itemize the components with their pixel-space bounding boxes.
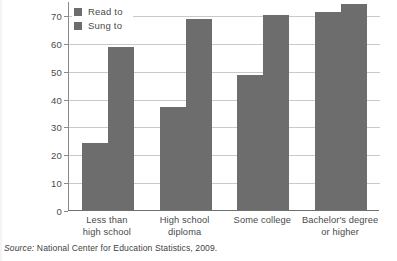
bar bbox=[315, 12, 341, 210]
legend-label: Sung to bbox=[88, 20, 122, 31]
source-label: Source: bbox=[4, 243, 34, 253]
x-axis-tick-label: Bachelor's degreeor higher bbox=[301, 215, 379, 238]
x-axis-tick-label-line: Less than bbox=[68, 215, 146, 227]
y-axis-tick-label: 60 bbox=[40, 38, 62, 49]
x-axis-tick-label-line: Bachelor's degree bbox=[301, 215, 379, 227]
x-axis-tick-label-line: high school bbox=[68, 227, 146, 239]
legend-label: Read to bbox=[88, 6, 123, 17]
y-axis-tick-label: 50 bbox=[40, 66, 62, 77]
y-axis-tick-mark bbox=[64, 44, 68, 45]
bar bbox=[341, 4, 367, 210]
y-axis-tick-label: 40 bbox=[40, 94, 62, 105]
x-axis-tick-label-line: High school bbox=[146, 215, 224, 227]
legend-item-sung-to: Sung to bbox=[74, 19, 123, 32]
x-axis-tick-label: Less thanhigh school bbox=[68, 215, 146, 238]
y-axis-tick-label: 20 bbox=[40, 150, 62, 161]
chart-legend: Read to Sung to bbox=[72, 3, 133, 36]
x-axis-tick-label: High schooldiploma bbox=[146, 215, 224, 238]
scan-edge bbox=[0, 0, 2, 261]
y-axis-tick-mark bbox=[64, 127, 68, 128]
legend-swatch-icon bbox=[74, 8, 82, 16]
source-text: National Center for Education Statistics… bbox=[37, 243, 218, 253]
y-axis-tick-label: 10 bbox=[40, 178, 62, 189]
y-axis-tick-mark bbox=[64, 100, 68, 101]
bar bbox=[186, 19, 212, 210]
y-axis-tick-mark bbox=[64, 72, 68, 73]
x-axis-tick-label: Some college bbox=[224, 215, 302, 227]
legend-swatch-icon bbox=[74, 22, 82, 30]
bar bbox=[237, 75, 263, 210]
x-axis-tick-label-line: Some college bbox=[224, 215, 302, 227]
legend-item-read-to: Read to bbox=[74, 5, 123, 18]
y-axis-tick-mark bbox=[64, 211, 68, 212]
y-axis-tick-label: 30 bbox=[40, 122, 62, 133]
y-axis-tick-label: 0 bbox=[40, 206, 62, 217]
y-axis-tick-mark bbox=[64, 155, 68, 156]
x-axis-tick-label-line: or higher bbox=[301, 227, 379, 239]
bar bbox=[160, 107, 186, 210]
x-axis-tick-label-line: diploma bbox=[146, 227, 224, 239]
y-axis-tick-mark bbox=[64, 183, 68, 184]
bar bbox=[82, 143, 108, 210]
source-note: Source: National Center for Education St… bbox=[4, 243, 217, 253]
y-axis-tick-mark bbox=[64, 16, 68, 17]
bar bbox=[108, 47, 134, 210]
y-axis-tick-label: 70 bbox=[40, 10, 62, 21]
bar bbox=[263, 15, 289, 210]
figure-container: 010203040506070 Less thanhigh schoolHigh… bbox=[0, 0, 397, 261]
